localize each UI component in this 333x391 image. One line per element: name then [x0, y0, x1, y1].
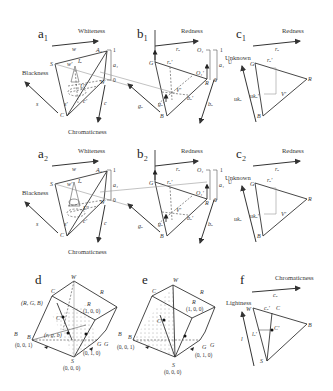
green-vector-arrow — [128, 84, 160, 112]
axis-label-unknown: Unknown — [225, 54, 251, 61]
vertex-R: R — [204, 80, 209, 86]
label-Ia: Iₐ — [77, 178, 82, 184]
panel-label-d: d — [35, 272, 42, 287]
point-mid — [85, 333, 88, 336]
label-ro-prime: rₒ' — [267, 177, 273, 183]
vector-C-label: C⃗ — [276, 305, 285, 311]
vector-ro-label: rₒ — [275, 46, 279, 52]
panel-c1: c₁ Redness rₒ Unknown ukₒ G R B rₒ' ukₒ'… — [225, 26, 312, 122]
vector-w-label: w — [72, 166, 76, 172]
vertex-R: R — [307, 76, 312, 82]
vertex-S: S — [172, 362, 175, 368]
axis-label-blackness: Blackness — [22, 69, 49, 76]
panel-d: d W C⃗ R⃗ (R, G, B) R (1, 0, 0) C' B⃗ B … — [14, 272, 117, 372]
vertex-W: W — [100, 79, 106, 85]
vertex-R: R — [191, 299, 196, 305]
label-V-prime: V' — [281, 211, 287, 217]
projection-line — [100, 72, 175, 93]
coord-R: (1, 0, 0) — [83, 308, 101, 315]
vertex-C: C — [60, 232, 65, 238]
coord-G: (0, 1, 0) — [195, 352, 213, 359]
axis-label-unknown: Unknown — [225, 174, 251, 181]
panel-label-b2: b₂ — [137, 146, 148, 161]
panel-label-a2: a₂ — [38, 146, 48, 161]
label-uko-prime: ukₒ' — [250, 213, 259, 219]
label-lo-prime: lₒ' — [252, 331, 257, 337]
coord-B: (0, 0, 1) — [117, 344, 135, 351]
vertex-O1-prime: O₁' — [196, 70, 204, 76]
vertex-B: B — [257, 113, 261, 119]
coord-rgb: (r, g, b) — [44, 332, 62, 339]
blackness-vector-arrow — [25, 82, 58, 113]
point-C-prime — [62, 316, 65, 319]
scale-top-1: 1 — [113, 47, 116, 53]
vector-uko-label: ukₒ — [234, 96, 242, 102]
vector-C-label: C⃗ — [51, 288, 60, 294]
label-s-prime: s' — [64, 221, 68, 227]
vector-go-label: gₒ — [138, 103, 143, 109]
vector-s-label: s — [36, 221, 39, 227]
vertex-G: G — [250, 181, 255, 187]
vector-go-label: gₒ — [138, 223, 143, 229]
vertex-A1: A₁ — [95, 167, 102, 173]
vertex-G: G — [149, 60, 154, 66]
vector-w-label: w — [72, 46, 76, 52]
scale-value: a₁ — [113, 62, 118, 68]
vertex-R: R — [204, 200, 209, 206]
label-V-prime: V' — [176, 87, 182, 93]
marker-arrow-right — [190, 347, 194, 351]
vector-G-label: G⃗ — [210, 342, 219, 348]
vertex-G: G — [149, 180, 154, 186]
vertex-B: B — [257, 233, 261, 239]
scale-bracket — [213, 170, 217, 200]
coord-RGB: (R, G, B) — [21, 300, 43, 307]
vertex-O1: O₁ — [197, 167, 203, 173]
scale-top-1: 1 — [113, 167, 116, 173]
label-bo-prime: bₒ' — [187, 215, 194, 221]
cone-ellipse — [69, 199, 79, 205]
projection-line — [55, 184, 130, 206]
vector-bo-label: bₒ — [208, 221, 213, 227]
vertex-O1-prime: O₁' — [196, 190, 204, 196]
panel-a2: a₂ Whiteness w Blackness s c Chromaticne… — [22, 146, 130, 255]
vertex-G: G — [250, 61, 255, 67]
vector-G-label: G⃗ — [104, 341, 113, 347]
scale-bottom-0: 0 — [214, 197, 217, 203]
label-C-prime: C' — [274, 325, 280, 331]
dotted-plane — [133, 285, 175, 357]
vector-uko-label: ukₒ — [234, 216, 242, 222]
vector-B-label: B⃗ — [14, 331, 22, 337]
scale-top-1: 1 — [220, 47, 223, 53]
point-rgb — [67, 332, 70, 335]
label-V-prime: V' — [281, 91, 287, 97]
vertex-B: B — [308, 322, 312, 328]
vertex-S: S — [50, 61, 53, 67]
panel-f: f Chromaticness cₒ Lightness l W B S C' … — [226, 272, 314, 366]
vector-c-label: c — [104, 100, 107, 106]
projection-lines — [264, 188, 276, 214]
triangle-WBS — [253, 308, 307, 361]
vector-ro-label: rₒ — [176, 46, 180, 52]
coord-B: (0, 0, 1) — [15, 342, 33, 349]
vertex-B: B — [160, 113, 164, 119]
panel-label-c1: c₁ — [236, 26, 246, 41]
panel-c2: c₂ Redness rₒ Unknown ukₒ G R B rₒ' ukₒ'… — [225, 146, 312, 242]
label-C-prime: C' — [157, 318, 163, 324]
cone-shape — [71, 66, 79, 82]
axis-label-whiteness: Whiteness — [78, 147, 106, 154]
dashed-guide-3 — [162, 92, 188, 95]
label-ro-prime: rₒ' — [267, 57, 273, 63]
label-Ia: Iₐ — [77, 58, 82, 64]
axis-label-redness: Redness — [282, 147, 304, 154]
scale-bottom-0: 0 — [113, 77, 116, 83]
panel-label-e: e — [142, 272, 148, 287]
vector-C-label: C⃗ — [152, 288, 161, 294]
color-space-figure: a₁ Whiteness w Blackness s c Chromaticne… — [0, 0, 333, 391]
coord-R: (1, 0, 0) — [186, 306, 204, 313]
label-s-prime: s' — [64, 101, 68, 107]
label-ro-prime: rₒ' — [167, 179, 173, 185]
marker-arrow-left — [44, 346, 48, 349]
label-V-prime: V' — [176, 207, 182, 213]
panel-a1: a₁ Whiteness w Blackness s c Chromaticne… — [22, 26, 130, 135]
coord-G: (0, 1, 0) — [83, 350, 101, 357]
